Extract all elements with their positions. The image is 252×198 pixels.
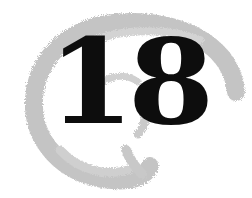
chapter-opener: 18 xyxy=(0,0,252,198)
chapter-number: 18 xyxy=(48,22,216,142)
